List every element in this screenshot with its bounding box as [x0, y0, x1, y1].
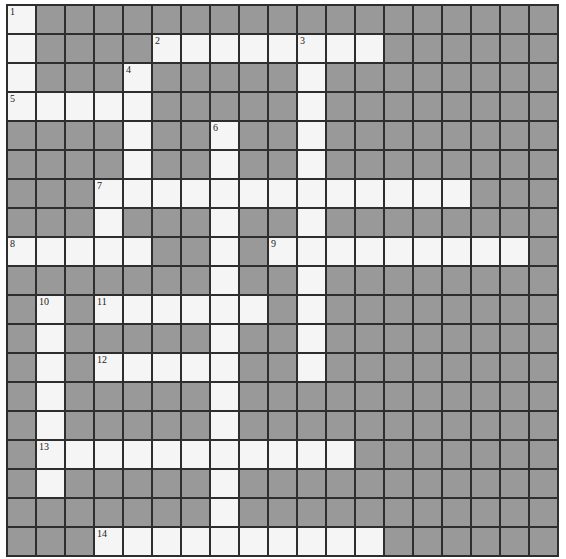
crossword-cell[interactable] — [36, 382, 65, 411]
crossword-cell[interactable] — [239, 440, 268, 469]
crossword-cell[interactable]: 11 — [94, 295, 123, 324]
crossword-cell[interactable]: 7 — [94, 179, 123, 208]
crossword-cell[interactable] — [7, 34, 36, 63]
crossword-cell[interactable] — [152, 353, 181, 382]
crossword-cell[interactable] — [297, 121, 326, 150]
crossword-cell[interactable]: 13 — [36, 440, 65, 469]
crossword-cell[interactable] — [268, 527, 297, 556]
crossword-cell[interactable] — [297, 237, 326, 266]
crossword-cell[interactable] — [123, 92, 152, 121]
crossword-cell[interactable] — [36, 237, 65, 266]
crossword-cell[interactable] — [94, 208, 123, 237]
crossword-cell[interactable] — [210, 237, 239, 266]
crossword-cell[interactable] — [210, 150, 239, 179]
crossword-cell[interactable] — [413, 237, 442, 266]
crossword-cell[interactable] — [326, 237, 355, 266]
crossword-cell[interactable]: 6 — [210, 121, 239, 150]
crossword-cell[interactable] — [210, 498, 239, 527]
crossword-cell[interactable] — [210, 208, 239, 237]
crossword-cell[interactable] — [268, 179, 297, 208]
crossword-cell[interactable] — [239, 34, 268, 63]
crossword-cell[interactable] — [210, 179, 239, 208]
crossword-cell[interactable]: 1 — [7, 5, 36, 34]
crossword-cell[interactable] — [181, 295, 210, 324]
crossword-cell[interactable] — [152, 440, 181, 469]
crossword-cell[interactable] — [355, 34, 384, 63]
crossword-cell[interactable] — [152, 295, 181, 324]
crossword-cell[interactable] — [500, 237, 529, 266]
crossword-cell[interactable] — [239, 527, 268, 556]
crossword-cell[interactable] — [36, 353, 65, 382]
crossword-cell[interactable] — [297, 92, 326, 121]
crossword-cell[interactable] — [123, 121, 152, 150]
crossword-cell[interactable] — [297, 266, 326, 295]
crossword-cell[interactable] — [239, 179, 268, 208]
crossword-cell[interactable] — [239, 295, 268, 324]
crossword-cell[interactable] — [36, 469, 65, 498]
crossword-cell[interactable] — [123, 295, 152, 324]
crossword-cell[interactable] — [326, 179, 355, 208]
crossword-cell[interactable] — [326, 34, 355, 63]
crossword-cell[interactable]: 9 — [268, 237, 297, 266]
crossword-cell[interactable] — [471, 237, 500, 266]
crossword-cell[interactable]: 2 — [152, 34, 181, 63]
crossword-cell[interactable] — [326, 527, 355, 556]
crossword-cell[interactable] — [210, 353, 239, 382]
crossword-cell[interactable] — [65, 440, 94, 469]
crossword-cell[interactable] — [210, 295, 239, 324]
crossword-cell[interactable] — [65, 92, 94, 121]
crossword-cell[interactable] — [210, 382, 239, 411]
crossword-cell[interactable] — [268, 34, 297, 63]
crossword-cell[interactable] — [123, 440, 152, 469]
crossword-cell[interactable] — [297, 208, 326, 237]
crossword-cell[interactable]: 10 — [36, 295, 65, 324]
crossword-cell[interactable] — [297, 63, 326, 92]
crossword-cell[interactable] — [94, 440, 123, 469]
crossword-cell[interactable] — [94, 92, 123, 121]
crossword-cell[interactable] — [7, 63, 36, 92]
crossword-cell[interactable] — [210, 324, 239, 353]
crossword-cell[interactable] — [210, 266, 239, 295]
crossword-cell[interactable] — [123, 237, 152, 266]
crossword-cell[interactable] — [152, 527, 181, 556]
crossword-cell[interactable] — [384, 179, 413, 208]
crossword-cell[interactable] — [152, 179, 181, 208]
crossword-cell[interactable] — [326, 440, 355, 469]
crossword-cell[interactable] — [297, 179, 326, 208]
crossword-cell[interactable] — [123, 179, 152, 208]
crossword-cell[interactable] — [181, 353, 210, 382]
crossword-cell[interactable] — [181, 440, 210, 469]
crossword-cell[interactable] — [355, 179, 384, 208]
crossword-cell[interactable] — [442, 179, 471, 208]
crossword-cell[interactable] — [36, 324, 65, 353]
crossword-cell[interactable] — [268, 440, 297, 469]
crossword-cell[interactable] — [297, 150, 326, 179]
crossword-cell[interactable]: 12 — [94, 353, 123, 382]
crossword-cell[interactable] — [297, 353, 326, 382]
crossword-cell[interactable] — [297, 440, 326, 469]
crossword-cell[interactable] — [384, 237, 413, 266]
crossword-cell[interactable] — [355, 527, 384, 556]
crossword-cell[interactable] — [210, 411, 239, 440]
crossword-cell[interactable] — [355, 237, 384, 266]
crossword-cell[interactable]: 8 — [7, 237, 36, 266]
crossword-cell[interactable] — [123, 527, 152, 556]
crossword-cell[interactable]: 5 — [7, 92, 36, 121]
crossword-cell[interactable] — [210, 440, 239, 469]
crossword-cell[interactable] — [36, 411, 65, 440]
crossword-cell[interactable] — [181, 34, 210, 63]
crossword-cell[interactable] — [413, 179, 442, 208]
crossword-cell[interactable] — [210, 34, 239, 63]
crossword-cell[interactable] — [123, 150, 152, 179]
crossword-cell[interactable] — [36, 92, 65, 121]
crossword-cell[interactable]: 14 — [94, 527, 123, 556]
crossword-cell[interactable] — [181, 179, 210, 208]
crossword-cell[interactable] — [297, 295, 326, 324]
crossword-cell[interactable]: 4 — [123, 63, 152, 92]
crossword-cell[interactable] — [181, 527, 210, 556]
crossword-cell[interactable] — [210, 469, 239, 498]
crossword-cell[interactable]: 3 — [297, 34, 326, 63]
crossword-cell[interactable] — [297, 324, 326, 353]
crossword-cell[interactable] — [65, 237, 94, 266]
crossword-cell[interactable] — [442, 237, 471, 266]
